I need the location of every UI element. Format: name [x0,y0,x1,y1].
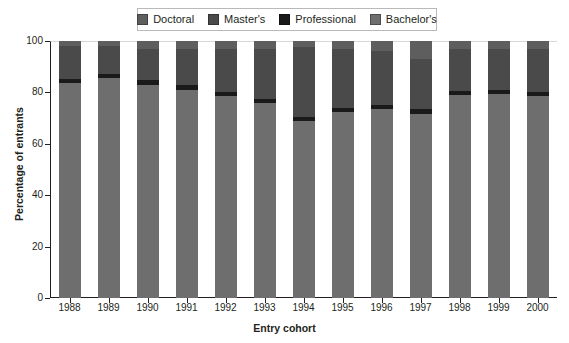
y-tick-mark [45,298,50,299]
bar-segment-professional [527,92,549,96]
bar-segment-master-s [176,49,198,85]
y-tick-mark [45,92,50,93]
y-tick-mark [45,144,50,145]
bar-segment-master-s [449,49,471,91]
bar-segment-master-s [488,49,510,90]
bar-segment-professional [137,80,159,85]
bar-segment-professional [59,79,81,84]
bar-segment-professional [176,85,198,90]
bar-segment-doctoral [176,41,198,49]
bar-segment-doctoral [527,41,549,49]
legend-swatch-icon [370,14,381,25]
bar-segment-doctoral [59,41,81,46]
chart-legend: DoctoralMaster'sProfessionalBachelor's [137,8,437,31]
bar-1992[interactable] [215,41,237,298]
plot-area: 020406080100 198819891990199119921993199… [50,41,557,298]
bar-segment-professional [488,90,510,94]
bar-1989[interactable] [98,41,120,298]
bar-segment-doctoral [410,41,432,59]
bar-segment-master-s [410,59,432,109]
x-tick-label: 1994 [284,303,323,313]
bar-segment-master-s [293,47,315,116]
x-tick-label: 1995 [323,303,362,313]
legend-item-doctoral[interactable]: Doctoral [137,14,194,25]
bar-1995[interactable] [332,41,354,298]
bar-segment-professional [98,74,120,79]
stacked-bar-chart: DoctoralMaster'sProfessionalBachelor's P… [0,0,569,343]
y-tick-label: 0 [10,293,43,303]
y-tick-label: 100 [10,36,43,46]
x-axis-title: Entry cohort [0,322,569,334]
bar-segment-doctoral [449,41,471,49]
bar-1998[interactable] [449,41,471,298]
bar-segment-professional [371,105,393,109]
legend-item-bachelor-s[interactable]: Bachelor's [370,14,437,25]
bar-segment-professional [410,109,432,114]
bar-segment-bachelor-s [215,96,237,298]
bar-segment-professional [449,91,471,95]
y-tick-mark [45,41,50,42]
y-tick-label: 20 [10,242,43,252]
bar-segment-doctoral [254,41,276,49]
bar-1988[interactable] [59,41,81,298]
x-tick-label: 1999 [479,303,518,313]
bar-2000[interactable] [527,41,549,298]
bar-1997[interactable] [410,41,432,298]
y-tick-mark [45,247,50,248]
bar-segment-doctoral [332,41,354,49]
x-tick-label: 1996 [362,303,401,313]
y-tick-label: 60 [10,139,43,149]
legend-swatch-icon [279,14,290,25]
bar-segment-professional [332,108,354,112]
bar-segment-master-s [254,49,276,99]
bar-segment-bachelor-s [98,78,120,298]
y-tick-mark [45,195,50,196]
legend-item-master-s[interactable]: Master's [208,14,265,25]
bar-segment-professional [254,99,276,103]
bar-segment-master-s [332,49,354,108]
x-tick-label: 1991 [167,303,206,313]
legend-swatch-icon [137,14,148,25]
x-tick-label: 2000 [518,303,557,313]
x-tick-label: 1990 [128,303,167,313]
legend-item-professional[interactable]: Professional [279,14,356,25]
bar-1994[interactable] [293,41,315,298]
bar-segment-professional [293,117,315,121]
bar-segment-master-s [98,46,120,73]
bar-segment-bachelor-s [137,85,159,298]
bar-segment-bachelor-s [527,96,549,298]
bar-segment-bachelor-s [293,121,315,298]
legend-swatch-icon [208,14,219,25]
bar-segment-bachelor-s [371,109,393,298]
bar-1996[interactable] [371,41,393,298]
bar-segment-master-s [215,49,237,92]
legend-item-label: Master's [224,14,265,25]
bar-segment-bachelor-s [59,83,81,298]
x-tick-label: 1998 [440,303,479,313]
bar-segment-master-s [59,46,81,79]
bar-segment-bachelor-s [176,90,198,298]
x-tick-label: 1997 [401,303,440,313]
bar-segment-professional [215,92,237,96]
x-tick-label: 1988 [50,303,89,313]
y-tick-label: 80 [10,87,43,97]
bar-segment-doctoral [488,41,510,49]
bar-segment-doctoral [137,41,159,49]
bar-1993[interactable] [254,41,276,298]
bar-segment-bachelor-s [410,114,432,298]
bar-1990[interactable] [137,41,159,298]
bar-segment-doctoral [215,41,237,49]
legend-item-label: Professional [295,14,356,25]
bar-segment-bachelor-s [332,112,354,298]
bar-segment-master-s [137,49,159,80]
bar-segment-doctoral [293,41,315,47]
bar-1991[interactable] [176,41,198,298]
bar-segment-bachelor-s [449,95,471,298]
bar-segment-master-s [371,51,393,105]
x-tick-label: 1993 [245,303,284,313]
bar-1999[interactable] [488,41,510,298]
bar-segment-bachelor-s [488,94,510,298]
legend-item-label: Doctoral [153,14,194,25]
legend-item-label: Bachelor's [386,14,437,25]
x-tick-label: 1992 [206,303,245,313]
